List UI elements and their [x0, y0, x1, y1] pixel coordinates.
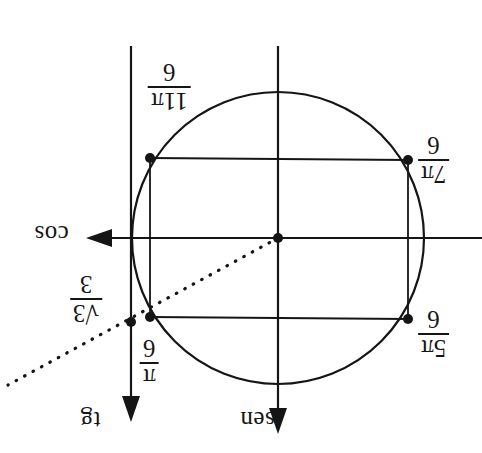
fraction-denominator: 3	[70, 272, 102, 298]
fraction-sqrt3-over-3: √3 3	[70, 272, 102, 326]
rect-bottom-edge	[150, 317, 408, 319]
point-5pi-6	[403, 314, 413, 324]
cos-axis-arrowhead	[86, 229, 112, 247]
label-7pi-6: 7π 6	[418, 133, 449, 187]
label-pi-6: π 6	[140, 336, 159, 390]
fraction-denominator: 6	[140, 336, 159, 362]
fraction-denominator: 6	[418, 307, 449, 333]
fraction-denominator: 6	[418, 133, 449, 159]
point-tangent-value	[126, 317, 136, 327]
origin-point	[273, 233, 283, 243]
fraction-numerator: π	[140, 362, 159, 390]
label-5pi-6: 5π 6	[418, 307, 449, 361]
unit-circle-svg	[0, 0, 482, 453]
label-11pi-6: 11π 6	[148, 60, 191, 114]
fraction-numerator: 5π	[418, 333, 449, 361]
rect-top-edge	[150, 158, 408, 160]
point-11pi-6	[145, 153, 155, 163]
fraction-numerator: 11π	[148, 86, 191, 114]
fraction-5pi-6: 5π 6	[418, 307, 449, 361]
fraction-numerator: √3	[70, 298, 102, 326]
point-7pi-6	[403, 155, 413, 165]
cos-axis-label: cos	[34, 222, 69, 247]
trig-circle-figure: 11π 6 7π 6 5π 6 π 6 √3 3 cos sen tg	[0, 0, 482, 453]
sen-axis-label: sen	[240, 408, 275, 433]
tg-axis-label: tg	[80, 408, 100, 433]
fraction-numerator: 7π	[418, 159, 449, 187]
fraction-denominator: 6	[148, 60, 191, 86]
fraction-pi-6: π 6	[140, 336, 159, 390]
label-tangent-value: √3 3	[70, 272, 102, 326]
point-pi-6	[145, 312, 155, 322]
fraction-11pi-6: 11π 6	[148, 60, 191, 114]
tg-axis-arrowhead	[122, 396, 140, 422]
fraction-7pi-6: 7π 6	[418, 133, 449, 187]
